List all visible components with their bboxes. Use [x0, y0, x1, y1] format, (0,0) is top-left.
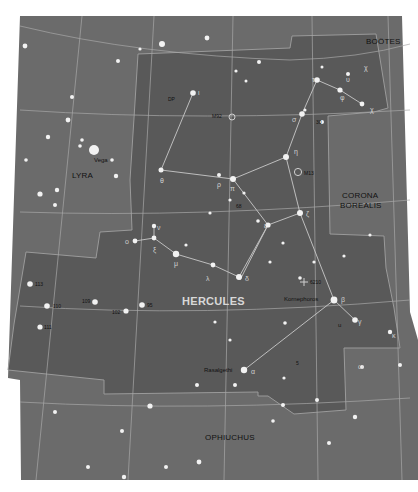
- constellation-label-bootes: BOÖTES: [366, 38, 401, 46]
- greek-label: ξ: [153, 246, 156, 253]
- greek-label: φ: [340, 94, 345, 101]
- flamsteed-label: 110: [53, 304, 61, 309]
- greek-label: λ: [206, 275, 210, 282]
- flamsteed-label: 111: [44, 325, 52, 330]
- star-chart: [0, 0, 418, 492]
- flamsteed-label: 102: [112, 310, 120, 315]
- greek-label: ε: [264, 222, 267, 229]
- dso-label-m92: M92: [212, 114, 222, 119]
- flamsteed-label: 95: [147, 303, 153, 308]
- greek-label: χ: [364, 64, 368, 71]
- greek-label: κ: [392, 332, 396, 339]
- greek-label: β: [341, 296, 345, 303]
- dso-label-6210: 6210: [310, 280, 321, 285]
- flamsteed-label: 68: [236, 204, 242, 209]
- constellation-label-hercules: HERCULES: [182, 296, 245, 307]
- constellation-label-borealis: BOREALIS: [340, 202, 382, 210]
- greek-label: υ: [346, 76, 350, 83]
- greek-label: α: [251, 368, 255, 375]
- greek-label: χ: [370, 106, 374, 113]
- star-label-rasalgethi: Rasalgethi: [204, 367, 232, 373]
- greek-label: π: [230, 185, 235, 192]
- flamsteed-label: 30: [316, 120, 322, 125]
- constellation-label-ophiuchus: OPHIUCHUS: [205, 434, 255, 442]
- greek-label: σ: [292, 116, 296, 123]
- greek-label: γ: [358, 318, 362, 325]
- flamsteed-label: 113: [35, 282, 43, 287]
- constellation-label-corona: CORONA: [342, 192, 378, 200]
- greek-label: θ: [160, 177, 164, 184]
- greek-label: ζ: [306, 210, 309, 217]
- greek-label: τ: [312, 76, 315, 83]
- greek-label: u: [338, 322, 341, 328]
- greek-label: ρ: [217, 181, 221, 188]
- greek-label: ω: [358, 363, 363, 370]
- flamsteed-label: 5: [296, 361, 299, 366]
- greek-label: ο: [125, 238, 129, 245]
- greek-label: ν: [157, 224, 161, 231]
- star-label-vega: Vega: [94, 157, 108, 163]
- star-label-kornephoros: Kornephoros: [284, 296, 318, 302]
- greek-label: η: [294, 148, 298, 155]
- dso-label-m13: M13: [304, 171, 314, 176]
- greek-label: μ: [174, 260, 178, 267]
- greek-label: ι: [198, 89, 200, 96]
- flamsteed-label: 109: [82, 299, 90, 304]
- constellation-label-lyra: LYRA: [72, 172, 93, 180]
- greek-label: δ: [245, 275, 249, 282]
- flamsteed-label: DP: [168, 97, 175, 102]
